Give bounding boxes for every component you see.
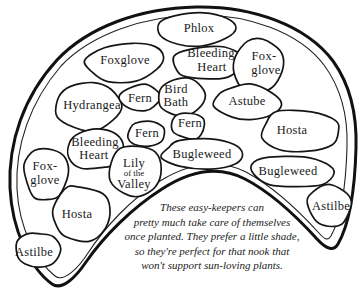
bleeding-heart-top-label-line2: Heart [197, 60, 226, 74]
region-hosta-right: Hosta [261, 110, 339, 151]
region-astilbe-left: Astilbe [15, 233, 61, 267]
garden-plan-page: Phlox Foxglove Bleeding Heart Fox- glove… [0, 0, 364, 295]
region-bugleweed-right: Bugleweed [251, 156, 334, 186]
foxglove-top-right-label-line2: glove [251, 63, 280, 77]
foxglove-left-label-line1: Fox- [33, 159, 58, 173]
foxglove-top-left-label: Foxglove [100, 53, 150, 67]
caption-line-3: once planted. They prefer a little shade… [125, 230, 300, 242]
region-fern-lower-left: Fern [128, 121, 165, 146]
region-bird-bath: Bird Bath [159, 78, 206, 116]
astilbe-right-label: Astilbe [312, 199, 350, 213]
bleeding-heart-top-label-line1: Bleeding [187, 46, 235, 60]
bleeding-heart-left-label-line1: Bleeding [71, 135, 119, 149]
bleeding-heart-left-label-line2: Heart [79, 148, 108, 162]
region-phlox: Phlox [158, 13, 236, 47]
foxglove-top-right-label-line1: Fox- [252, 49, 277, 63]
astilbe-left-label: Astilbe [15, 245, 53, 259]
region-hosta-bottom-left: Hosta [52, 186, 110, 242]
region-fern-center: Fern [172, 113, 205, 139]
caption-line-5: won't support sun-loving plants. [141, 259, 283, 271]
fern-lower-left-label: Fern [135, 126, 160, 140]
lily-label-line3: Valley [117, 177, 151, 191]
hosta-bottom-left-label: Hosta [62, 207, 93, 221]
region-astilbe-right: Astilbe [307, 184, 351, 226]
caption-line-1: These easy-keepers can [160, 201, 264, 213]
region-fern-upper-left: Fern [119, 84, 161, 111]
foxglove-left-label-line2: glove [30, 173, 59, 187]
phlox-label: Phlox [184, 21, 215, 35]
region-bugleweed-center: Bugleweed [161, 139, 243, 170]
bird-bath-label-line1: Bird [164, 82, 188, 96]
caption-line-2: pretty much take care of themselves [133, 216, 291, 228]
caption: These easy-keepers can pretty much take … [125, 201, 300, 271]
bird-bath-label-line2: Bath [164, 95, 189, 109]
fern-center-label: Fern [178, 116, 203, 130]
astube-label: Astube [228, 94, 265, 108]
region-foxglove-top-left: Foxglove [84, 43, 163, 82]
hydrangea-label: Hydrangea [63, 98, 121, 112]
bugleweed-right-label: Bugleweed [259, 164, 318, 178]
caption-line-4: so they're perfect for that nook that [135, 245, 291, 257]
region-hydrangea: Hydrangea [56, 83, 122, 132]
hosta-right-label: Hosta [277, 123, 308, 137]
region-lily-of-the-valley: Lily of the Valley [109, 146, 161, 197]
bugleweed-center-label: Bugleweed [173, 147, 232, 161]
garden-plan-diagram: Phlox Foxglove Bleeding Heart Fox- glove… [0, 0, 364, 295]
fern-upper-left-label: Fern [128, 91, 153, 105]
